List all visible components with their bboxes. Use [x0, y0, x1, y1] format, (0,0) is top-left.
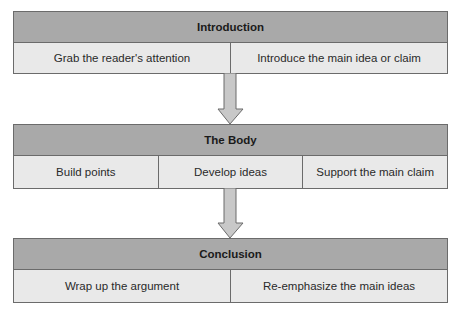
down-arrow-icon	[217, 73, 244, 125]
stage-introduction: Introduction Grab the reader's attention…	[13, 11, 448, 74]
stage-body: The Body Build points Develop ideas Supp…	[13, 124, 448, 189]
stage-items-conclusion: Wrap up the argument Re-emphasize the ma…	[14, 270, 447, 302]
stage-item: Support the main claim	[303, 156, 447, 188]
stage-item: Build points	[14, 156, 159, 188]
down-arrow-icon	[217, 188, 244, 239]
stage-conclusion: Conclusion Wrap up the argument Re-empha…	[13, 238, 448, 303]
stage-items-introduction: Grab the reader's attention Introduce th…	[14, 43, 447, 73]
stage-item: Wrap up the argument	[14, 270, 231, 302]
stage-item: Introduce the main idea or claim	[231, 43, 447, 73]
stage-header-conclusion: Conclusion	[14, 239, 447, 270]
stage-header-body: The Body	[14, 125, 447, 156]
stage-header-introduction: Introduction	[14, 12, 447, 43]
stage-items-body: Build points Develop ideas Support the m…	[14, 156, 447, 188]
stage-item: Develop ideas	[159, 156, 304, 188]
stage-item: Re-emphasize the main ideas	[231, 270, 447, 302]
stage-item: Grab the reader's attention	[14, 43, 231, 73]
